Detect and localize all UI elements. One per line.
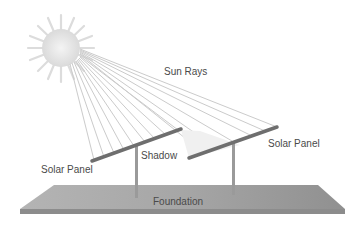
sun-icon [28, 15, 94, 82]
right-solar-panel-label: Solar Panel [268, 138, 320, 149]
right-panel-post [232, 141, 235, 195]
left-panel-post [135, 144, 138, 198]
sun-rays-label: Sun Rays [164, 66, 207, 77]
left-solar-panel-label: Solar Panel [41, 164, 93, 175]
foundation-label: Foundation [153, 196, 203, 207]
shadow-label: Shadow [141, 150, 177, 161]
